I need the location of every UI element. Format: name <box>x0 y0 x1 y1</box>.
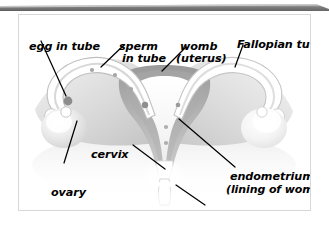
label-egg-in-tube: egg in tube <box>29 41 100 53</box>
follicle-left <box>61 107 71 117</box>
sperm-marker <box>164 125 168 129</box>
egg-marker <box>64 97 73 106</box>
follicle-right <box>257 107 267 117</box>
figure-root: egg in tube sperm in tube womb (uterus) … <box>0 0 329 227</box>
label-cervix: cervix <box>91 149 128 161</box>
top-bar-svg <box>0 4 329 11</box>
label-endometrium-line2: (lining of womb) <box>226 184 311 196</box>
label-ovary: ovary <box>51 187 86 199</box>
label-womb-line1: womb <box>180 41 217 53</box>
sperm-marker <box>176 103 181 108</box>
sperm-marker <box>113 73 117 77</box>
label-sperm-line1: sperm <box>119 41 158 53</box>
label-sperm-line2: in tube <box>122 53 166 65</box>
sperm-marker <box>129 87 133 91</box>
label-womb-line2: (uterus) <box>176 53 226 65</box>
label-fallopian-tube: Fallopian tube <box>237 39 311 51</box>
diagram-panel: egg in tube sperm in tube womb (uterus) … <box>18 14 311 211</box>
label-endometrium-line1: endometrium <box>230 171 311 183</box>
sperm-marker <box>164 141 168 145</box>
label-vagina: vagina <box>203 210 245 211</box>
sperm-marker <box>90 68 94 72</box>
top-bar-decoration <box>0 0 329 11</box>
sperm-marker <box>142 102 148 108</box>
